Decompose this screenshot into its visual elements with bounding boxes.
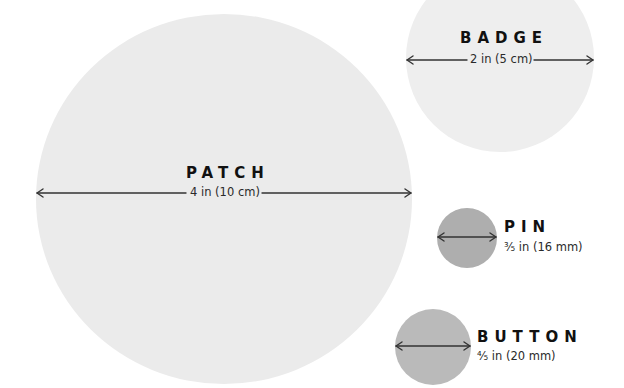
button-size: ⅘ in (20 mm) <box>477 351 556 363</box>
patch-circle <box>36 14 412 384</box>
pin-circle <box>437 208 497 268</box>
patch-label: PATCH <box>186 166 270 181</box>
patch-size: 4 in (10 cm) <box>190 187 260 199</box>
button-circle <box>395 309 471 385</box>
badge-label: BADGE <box>460 31 548 46</box>
button-label: BUTTON <box>477 330 583 345</box>
pin-size: ⅗ in (16 mm) <box>504 242 583 254</box>
badge-circle <box>406 0 594 152</box>
pin-label: PIN <box>504 220 551 235</box>
badge-size: 2 in (5 cm) <box>470 54 533 66</box>
